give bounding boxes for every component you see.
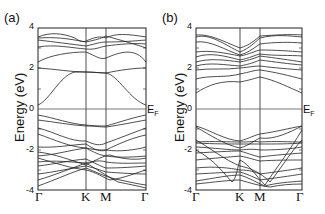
band-plot-a (0, 0, 162, 214)
band-structure-panel-a: (a) Energy (eV) 4 2 0 -2 -4 EF Γ K M Γ (0, 0, 162, 214)
band-structure-panel-b: (b) Energy (eV) 4 2 0 -2 -4 EF Γ K M Γ (160, 0, 322, 214)
band-plot-b (160, 0, 322, 214)
